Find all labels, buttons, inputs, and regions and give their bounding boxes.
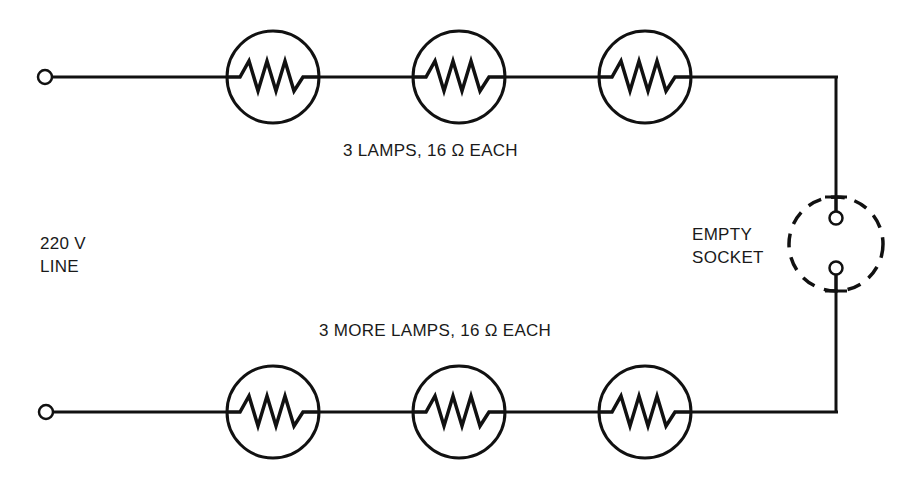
socket-label-line1: EMPTY — [692, 225, 752, 245]
top-lamps-label: 3 LAMPS, 16 Ω EACH — [343, 141, 518, 161]
top-terminal-icon — [38, 70, 52, 84]
lamp-4-icon — [227, 366, 319, 458]
lamp-2-icon — [413, 31, 505, 123]
source-line-label: LINE — [40, 257, 79, 277]
lamp-6-icon — [599, 366, 691, 458]
bottom-lamps-label: 3 MORE LAMPS, 16 Ω EACH — [319, 321, 551, 341]
lamp-5-icon — [413, 366, 505, 458]
empty-socket-icon — [789, 197, 883, 291]
lamp-1-icon — [227, 31, 319, 123]
socket-label-line2: SOCKET — [692, 248, 764, 268]
circuit-diagram — [0, 0, 916, 489]
lamp-3-icon — [599, 31, 691, 123]
bottom-terminal-icon — [39, 405, 53, 419]
source-voltage-label: 220 V — [40, 234, 86, 254]
